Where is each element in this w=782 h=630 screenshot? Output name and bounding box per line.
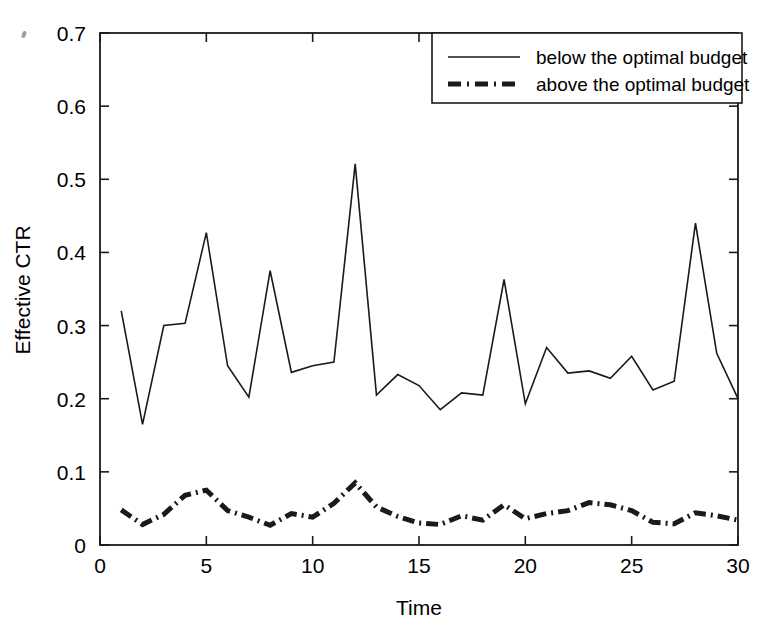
y-tick-label-3: 0.3 [57, 315, 86, 338]
y-tick-label-2: 0.2 [57, 388, 86, 411]
x-axis-tick-labels: 051015202530 [94, 554, 750, 577]
y-tick-label-7: 0.7 [57, 22, 86, 45]
x-tick-label-6: 30 [726, 554, 749, 577]
plot-frame [100, 33, 738, 545]
x-tick-label-5: 25 [620, 554, 643, 577]
x-tick-label-4: 20 [514, 554, 537, 577]
x-tick-label-1: 5 [200, 554, 212, 577]
y-tick-label-0: 0 [74, 534, 86, 557]
legend-label-below-the-optimal-budget: below the optimal budget [536, 47, 748, 68]
y-tick-label-6: 0.6 [57, 95, 86, 118]
x-tick-label-2: 10 [301, 554, 324, 577]
effective-ctr-line-chart: 051015202530 00.10.20.30.40.50.60.7 Time… [0, 0, 782, 630]
series-line-below-the-optimal-budget [121, 164, 738, 424]
y-tick-label-4: 0.4 [57, 241, 87, 264]
series-line-above-the-optimal-budget [121, 483, 738, 525]
legend-label-above-the-optimal-budget: above the optimal budget [536, 74, 750, 95]
y-tick-label-5: 0.5 [57, 168, 86, 191]
y-axis-tick-marks [100, 33, 738, 545]
chart-legend: below the optimal budget above the optim… [432, 33, 750, 103]
x-axis-tick-marks [100, 33, 738, 545]
x-axis-title: Time [396, 596, 442, 619]
x-tick-label-0: 0 [94, 554, 106, 577]
x-tick-label-3: 15 [407, 554, 430, 577]
chart-figure: 051015202530 00.10.20.30.40.50.60.7 Time… [0, 0, 782, 630]
y-axis-tick-labels: 00.10.20.30.40.50.60.7 [57, 22, 87, 557]
series-path-1 [121, 483, 738, 525]
y-axis-title: Effective CTR [11, 225, 34, 354]
y-tick-label-1: 0.1 [57, 461, 86, 484]
series-path-0 [121, 164, 738, 424]
